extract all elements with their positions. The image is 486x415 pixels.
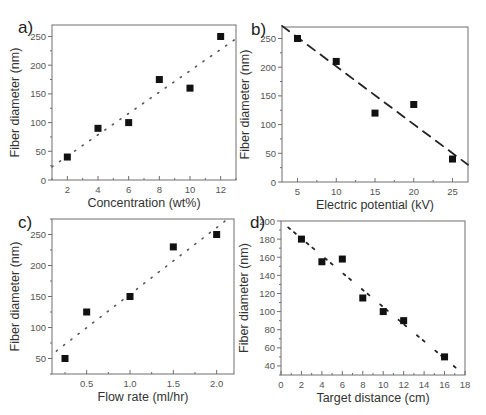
x-tick-label: 0.5 — [80, 378, 93, 389]
data-point-square — [372, 110, 379, 117]
panel-a: 24681012050100150200250Concentration (wt… — [8, 18, 236, 210]
y-tick-label: 250 — [30, 229, 46, 240]
panel-d: 024681012141618406080100120140160180200T… — [237, 213, 470, 405]
x-tick-label: 1.5 — [167, 378, 180, 389]
data-point-square — [170, 243, 177, 250]
y-tick-label: 140 — [259, 270, 275, 281]
data-point-square — [213, 231, 220, 238]
x-tick-label: 2 — [299, 379, 304, 390]
x-axis-label: Target distance (cm) — [316, 391, 429, 405]
y-tick-label: 60 — [264, 342, 275, 353]
y-tick-label: 40 — [264, 360, 275, 371]
trend-line — [52, 39, 236, 167]
figure-four-panel-scatter: 24681012050100150200250Concentration (wt… — [0, 0, 486, 415]
data-point-square — [127, 293, 134, 300]
plot-frame — [282, 27, 468, 182]
y-axis-label: Fiber diameter (nm) — [237, 243, 251, 353]
x-tick-label: 5 — [295, 186, 300, 197]
data-point-square — [83, 309, 90, 316]
y-tick-label: 80 — [264, 324, 275, 335]
data-point-square — [359, 295, 366, 302]
y-tick-label: 200 — [30, 60, 46, 71]
x-tick-label: 0 — [278, 379, 283, 390]
x-tick-label: 18 — [460, 379, 471, 390]
plot-frame — [52, 219, 234, 374]
y-axis-label: Fiber diameter (nm) — [238, 50, 252, 160]
x-tick-label: 4 — [95, 184, 100, 195]
x-tick-label: 14 — [419, 379, 430, 390]
y-tick-label: 0 — [271, 177, 276, 188]
panel-b: 510152025050100150200250Electric potenti… — [238, 20, 468, 212]
trend-line — [288, 227, 457, 368]
data-point-square — [441, 353, 448, 360]
data-point-square — [339, 256, 346, 263]
y-tick-label: 50 — [35, 353, 46, 364]
y-tick-label: 50 — [35, 146, 46, 157]
x-tick-label: 6 — [340, 379, 345, 390]
data-point-square — [125, 119, 132, 126]
data-point-square — [400, 317, 407, 324]
data-point-square — [187, 85, 194, 92]
panel-label: d) — [250, 213, 265, 232]
y-tick-label: 150 — [30, 88, 46, 99]
trend-line — [56, 221, 225, 351]
y-tick-label: 150 — [30, 291, 46, 302]
y-tick-label: 120 — [259, 288, 275, 299]
x-axis-label: Concentration (wt%) — [87, 196, 200, 210]
trend-line — [282, 26, 468, 165]
x-tick-label: 16 — [439, 379, 450, 390]
data-point-square — [318, 258, 325, 265]
x-axis-label: Flow rate (ml/hr) — [98, 390, 189, 404]
y-tick-label: 150 — [260, 90, 276, 101]
x-tick-label: 20 — [408, 186, 419, 197]
y-tick-label: 100 — [260, 119, 276, 130]
panel-label: b) — [251, 20, 266, 39]
x-tick-label: 12 — [398, 379, 409, 390]
x-tick-label: 10 — [378, 379, 389, 390]
data-point-square — [217, 33, 224, 40]
y-tick-label: 200 — [30, 260, 46, 271]
y-tick-label: 200 — [260, 62, 276, 73]
y-axis-label: Fiber diameter (nm) — [8, 48, 22, 158]
data-point-square — [64, 154, 71, 161]
x-tick-label: 10 — [331, 186, 342, 197]
data-point-square — [156, 76, 163, 83]
y-tick-label: 50 — [265, 148, 276, 159]
x-tick-label: 2.0 — [210, 378, 223, 389]
x-tick-label: 12 — [215, 184, 226, 195]
x-tick-label: 8 — [360, 379, 365, 390]
panel-c: 0.51.01.52.050100150200250Flow rate (ml/… — [8, 213, 234, 404]
data-point-square — [62, 355, 69, 362]
x-tick-label: 1.0 — [123, 378, 136, 389]
x-tick-label: 15 — [370, 186, 381, 197]
data-point-square — [294, 35, 301, 42]
panel-label: c) — [18, 213, 32, 232]
y-tick-label: 100 — [30, 117, 46, 128]
x-tick-label: 4 — [319, 379, 324, 390]
data-point-square — [410, 101, 417, 108]
y-tick-label: 160 — [259, 252, 275, 263]
x-tick-label: 8 — [157, 184, 162, 195]
data-point-square — [449, 156, 456, 163]
x-axis-label: Electric potential (kV) — [316, 198, 434, 212]
x-tick-label: 10 — [185, 184, 196, 195]
y-axis-label: Fiber diameter (nm) — [8, 242, 22, 352]
y-tick-label: 100 — [30, 322, 46, 333]
y-tick-label: 0 — [41, 175, 46, 186]
data-point-square — [95, 125, 102, 132]
panel-label: a) — [18, 18, 33, 37]
chart-canvas: 24681012050100150200250Concentration (wt… — [0, 0, 486, 415]
y-tick-label: 180 — [259, 234, 275, 245]
y-tick-label: 100 — [259, 306, 275, 317]
data-point-square — [333, 58, 340, 65]
x-tick-label: 2 — [65, 184, 70, 195]
data-point-square — [298, 236, 305, 243]
data-point-square — [380, 308, 387, 315]
x-tick-label: 6 — [126, 184, 131, 195]
x-tick-label: 25 — [447, 186, 458, 197]
